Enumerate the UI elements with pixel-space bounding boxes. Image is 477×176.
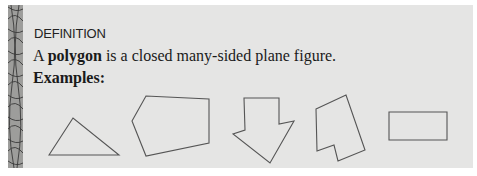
- pentagon-shape: [132, 96, 209, 156]
- irregular-hexagon-shape: [316, 95, 365, 161]
- rectangle-shape: [389, 112, 447, 140]
- triangle-shape: [49, 118, 119, 155]
- arrow-shape: [233, 98, 294, 163]
- example-shapes: [0, 0, 477, 176]
